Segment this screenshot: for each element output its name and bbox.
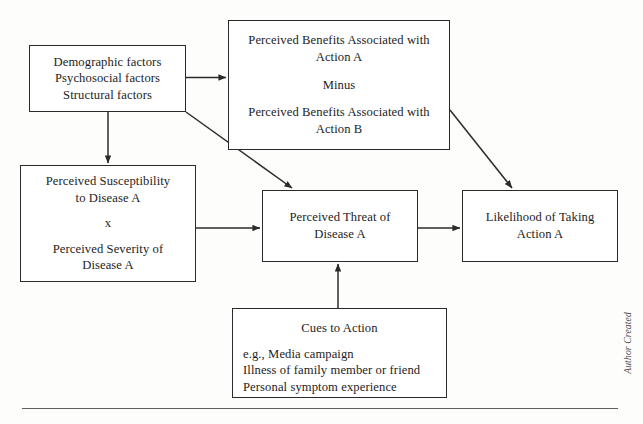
box-perceived-susceptibility: Perceived Susceptibility to Disease A x … (20, 165, 196, 282)
box-demographic-factors: Demographic factors Psychosocial factors… (29, 45, 186, 112)
cues-list: e.g., Media campaign Illness of family m… (233, 346, 420, 396)
benefits-line-3: Perceived Benefits Associated with (248, 104, 429, 121)
cues-item-3: Personal symptom experience (243, 379, 420, 396)
threat-line-2: Disease A (314, 226, 366, 243)
arrow-benefits-to-likelihood (450, 110, 512, 188)
factors-line-2: Psychosocial factors (55, 70, 160, 87)
factors-line-1: Demographic factors (54, 54, 162, 71)
cues-title: Cues to Action (233, 320, 446, 337)
diagram-canvas: Demographic factors Psychosocial factors… (0, 0, 643, 424)
threat-line-1: Perceived Threat of (290, 209, 391, 226)
author-credit: Author Created (623, 312, 639, 374)
box-perceived-threat: Perceived Threat of Disease A (262, 190, 418, 262)
cues-item-2: Illness of family member or friend (243, 362, 420, 379)
susceptibility-operator: x (105, 215, 111, 232)
box-perceived-benefits: Perceived Benefits Associated with Actio… (228, 20, 450, 150)
cues-item-1: e.g., Media campaign (243, 346, 420, 363)
benefits-line-2: Action A (316, 49, 363, 66)
box-likelihood-of-taking-action: Likelihood of Taking Action A (462, 190, 618, 262)
factors-line-3: Structural factors (63, 87, 152, 104)
susceptibility-line-2: to Disease A (76, 190, 141, 207)
benefits-operator: Minus (323, 77, 356, 94)
susceptibility-line-4: Disease A (82, 257, 134, 274)
likelihood-line-2: Action A (517, 226, 564, 243)
benefits-line-4: Action B (316, 121, 363, 138)
likelihood-line-1: Likelihood of Taking (486, 209, 595, 226)
box-cues-to-action: Cues to Action e.g., Media campaign Illn… (232, 308, 447, 398)
bottom-divider (22, 408, 618, 409)
susceptibility-line-3: Perceived Severity of (53, 241, 164, 258)
benefits-line-1: Perceived Benefits Associated with (248, 32, 429, 49)
susceptibility-line-1: Perceived Susceptibility (46, 173, 170, 190)
